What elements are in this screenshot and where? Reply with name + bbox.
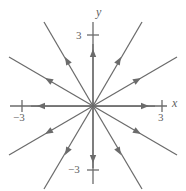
arrowhead-0-degrees: [141, 103, 149, 109]
radial-rays: [9, 22, 177, 189]
x-tick-label-negative-three: −3: [13, 112, 25, 123]
arrowhead-150-degrees: [43, 75, 53, 85]
ray-300-degrees: [93, 106, 142, 189]
arrowhead-60-degrees: [114, 55, 124, 65]
arrowhead-90-degrees: [90, 49, 96, 57]
radial-ray-diagram: [0, 0, 186, 191]
coordinate-plane-figure: y x 3 −3 −3 3: [0, 0, 186, 191]
arrowhead-270-degrees: [90, 155, 96, 163]
arrowhead-120-degrees: [62, 55, 72, 65]
arrowhead-330-degrees: [132, 127, 142, 137]
arrowhead-180-degrees: [37, 103, 45, 109]
x-tick-label-positive-three: 3: [158, 112, 164, 123]
ray-240-degrees: [44, 106, 93, 189]
y-tick-label-negative-three: −3: [68, 164, 80, 175]
y-axis-label: y: [96, 6, 101, 18]
arrowhead-210-degrees: [43, 127, 53, 137]
y-tick-label-positive-three: 3: [76, 30, 82, 41]
arrowhead-30-degrees: [132, 75, 142, 85]
x-axis-label: x: [172, 97, 177, 109]
